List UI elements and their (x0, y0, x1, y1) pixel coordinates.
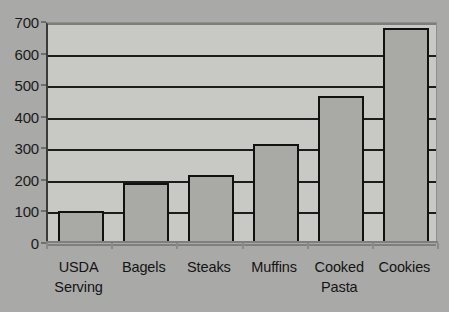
bar (253, 144, 299, 243)
y-tick-label-700: 700 (15, 14, 39, 31)
x-tick-label: USDA Serving (54, 258, 102, 297)
y-tick-label-300: 300 (15, 140, 39, 157)
x-tick-label: Steaks (187, 258, 231, 278)
plot-area (46, 22, 437, 243)
y-tick-label-0: 0 (31, 235, 39, 252)
bar (383, 28, 429, 243)
bar (188, 175, 234, 243)
y-axis: 7006005004003002001000 (0, 0, 46, 312)
x-tick-mark-0 (46, 243, 48, 249)
x-tick-label: Cookies (379, 258, 431, 278)
x-tick-label: Bagels (122, 258, 166, 278)
x-tick-mark-6 (437, 243, 439, 249)
y-tick-label-200: 200 (15, 171, 39, 188)
x-tick-mark-3 (242, 243, 244, 249)
bar (58, 211, 104, 243)
x-tick-mark-5 (372, 243, 374, 249)
x-tick-mark-1 (111, 243, 113, 249)
x-axis: USDA ServingBagelsSteaksMuffinsCooked Pa… (46, 243, 437, 312)
bar (123, 183, 169, 243)
x-tick-label: Muffins (251, 258, 297, 278)
y-tick-label-100: 100 (15, 203, 39, 220)
x-tick-label: Cooked Pasta (315, 258, 364, 297)
y-tick-label-600: 600 (15, 45, 39, 62)
bar-chart: 7006005004003002001000 USDA ServingBagel… (0, 0, 449, 312)
bar (318, 96, 364, 243)
x-tick-mark-2 (176, 243, 178, 249)
y-tick-label-400: 400 (15, 108, 39, 125)
x-tick-mark-4 (307, 243, 309, 249)
y-tick-label-500: 500 (15, 77, 39, 94)
bars-group (48, 24, 436, 243)
